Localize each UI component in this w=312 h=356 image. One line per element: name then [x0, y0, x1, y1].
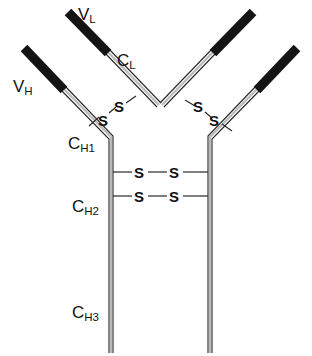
antibody-structure-figure: VL VH CL CH1 CH2 CH3 S S S S S S S S — [0, 0, 312, 356]
heavy-chain-left — [24, 48, 113, 353]
label-c-h1: CH1 — [68, 135, 95, 152]
label-c-h1-subscript: H1 — [80, 142, 95, 154]
label-v-h-subscript: H — [24, 85, 32, 97]
label-c-h3: CH3 — [72, 304, 99, 321]
label-v-l-subscript: L — [89, 13, 95, 25]
label-c-h2: CH2 — [72, 198, 99, 215]
label-v-h-text: V — [13, 77, 24, 96]
light-chain-right-variable-domain — [213, 12, 253, 53]
sulfur-hinge-lower-right: S — [169, 189, 179, 204]
sulfur-hinge-lower-left: S — [134, 189, 144, 204]
label-v-l-text: V — [78, 5, 89, 24]
label-c-h3-subscript: H3 — [84, 311, 99, 323]
label-v-h: VH — [13, 78, 33, 95]
label-c-l-text: C — [117, 51, 129, 70]
sulfur-left-interchain-lower: S — [98, 113, 108, 128]
label-c-h2-text: C — [72, 197, 84, 216]
label-c-h3-text: C — [72, 303, 84, 322]
sulfur-right-interchain-upper: S — [193, 99, 203, 114]
sulfur-hinge-upper-left: S — [134, 165, 144, 180]
label-c-h1-text: C — [68, 134, 80, 153]
heavy-chain-right-variable-domain — [257, 48, 297, 90]
light-chain-left — [68, 12, 161, 107]
antibody-diagram-svg — [0, 0, 312, 356]
sulfur-hinge-upper-right: S — [169, 165, 179, 180]
label-v-l: VL — [78, 6, 96, 23]
light-chain-right — [160, 12, 253, 107]
sulfur-right-interchain-lower: S — [209, 113, 219, 128]
label-c-l-subscript: L — [129, 59, 135, 71]
heavy-chain-right — [208, 48, 297, 353]
sulfur-left-interchain-upper: S — [114, 99, 124, 114]
label-c-h2-subscript: H2 — [84, 205, 99, 217]
light-chain-right-constant-domain — [160, 48, 217, 107]
label-c-l: CL — [117, 52, 136, 69]
